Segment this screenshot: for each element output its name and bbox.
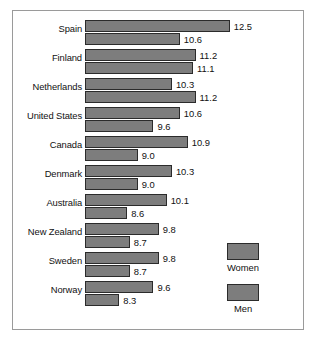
bar-value-label: 9.8 [163,224,176,235]
bar-women [85,281,153,293]
bar-men [85,265,130,277]
bar-value-label: 10.1 [171,195,189,206]
legend-item-women: Women [213,243,293,284]
bar-value-label: 9.8 [163,253,176,264]
bar-women [85,223,159,235]
chart-row: Netherlands10.311.2 [13,77,305,106]
bar-men [85,91,196,103]
legend-swatch [227,243,259,260]
bar-value-label: 9.6 [157,282,170,293]
bar-value-label: 11.2 [200,92,218,103]
bar-women [85,107,180,119]
bar-group: 10.99.0 [85,135,305,164]
bar-group: 10.18.6 [85,193,305,222]
bar-women [85,136,188,148]
bar-men [85,33,180,45]
bar-women [85,49,196,61]
bar-value-label: 10.3 [176,166,194,177]
bar-men [85,120,153,132]
bar-group: 10.39.0 [85,164,305,193]
chart-row: Canada10.99.0 [13,135,305,164]
category-label: Denmark [13,168,82,179]
chart-row: Australia10.18.6 [13,193,305,222]
bar-group: 11.211.1 [85,48,305,77]
chart-row: United States10.69.6 [13,106,305,135]
chart-row: Finland11.211.1 [13,48,305,77]
bar-men [85,207,127,219]
bar-women [85,78,172,90]
bar-men [85,149,138,161]
category-label: Netherlands [13,81,82,92]
chart-frame: Spain12.510.6Finland11.211.1Netherlands1… [12,10,304,330]
bar-value-label: 9.0 [142,150,155,161]
legend-item-men: Men [213,284,293,325]
legend-label: Men [213,303,273,314]
bar-group: 10.311.2 [85,77,305,106]
bar-value-label: 8.6 [131,208,144,219]
bar-value-label: 10.6 [184,34,202,45]
chart-row: Spain12.510.6 [13,19,305,48]
bar-value-label: 10.3 [176,79,194,90]
legend-swatch [227,284,259,301]
bar-value-label: 9.0 [142,179,155,190]
bar-women [85,194,167,206]
category-label: New Zealand [13,226,82,237]
bar-value-label: 11.2 [200,50,218,61]
category-label: Australia [13,197,82,208]
bar-group: 12.510.6 [85,19,305,48]
bar-value-label: 9.6 [157,121,170,132]
category-label: Norway [13,284,82,295]
category-label: Spain [13,23,82,34]
bar-value-label: 10.6 [184,108,202,119]
bar-value-label: 8.7 [134,266,147,277]
bar-women [85,165,172,177]
bar-value-label: 8.7 [134,237,147,248]
bar-value-label: 12.5 [234,21,252,32]
category-label: Canada [13,139,82,150]
bar-value-label: 8.3 [123,295,136,306]
category-label: Finland [13,52,82,63]
bar-women [85,252,159,264]
bar-men [85,294,119,306]
bar-value-label: 10.9 [192,137,210,148]
bar-men [85,178,138,190]
bar-women [85,20,230,32]
bar-men [85,236,130,248]
chart-row: Denmark10.39.0 [13,164,305,193]
bar-group: 10.69.6 [85,106,305,135]
bar-men [85,62,193,74]
chart-legend: WomenMen [213,243,293,325]
bar-value-label: 11.1 [197,63,215,74]
category-label: United States [13,110,82,121]
legend-label: Women [213,262,273,273]
category-label: Sweden [13,255,82,266]
